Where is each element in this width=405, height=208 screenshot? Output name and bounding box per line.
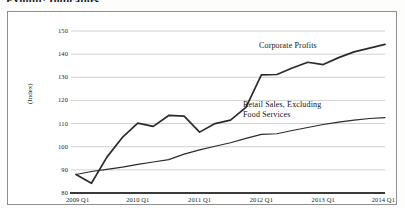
series-line-retail-sales	[76, 118, 385, 175]
y-axis-label-140: 140	[42, 50, 68, 57]
series-annotation-retail-sales: Retail Sales, Excluding Food Services	[243, 100, 363, 119]
y-axis-label-100: 100	[42, 143, 68, 150]
x-axis-label-2009-q1: 2009 Q1	[66, 196, 106, 203]
x-axis-label-2011-q1: 2011 Q1	[180, 196, 220, 203]
y-axis-label-110: 110	[42, 120, 68, 127]
retail-sales-label-line1: Retail Sales, Excluding	[243, 100, 321, 109]
x-axis-label-2010-q1: 2010 Q1	[118, 196, 158, 203]
x-axis-label-2012-q1: 2012 Q1	[241, 196, 281, 203]
y-axis-title: (Index)	[26, 83, 34, 104]
series-annotation-corporate-profits: Corporate Profits	[259, 41, 317, 51]
x-axis-label-2014-q1: 2014 Q1	[355, 196, 395, 203]
x-axis-label-2013-q1: 2013 Q1	[303, 196, 343, 203]
retail-sales-label-line2: Food Services	[243, 110, 291, 119]
figure-root: Exhibit: Indicators 80901001101201301401…	[0, 0, 405, 208]
y-axis-label-80: 80	[42, 189, 68, 196]
y-axis-label-150: 150	[42, 27, 68, 34]
y-axis-label-130: 130	[42, 73, 68, 80]
y-axis-label-90: 90	[42, 166, 68, 173]
y-axis-label-120: 120	[42, 96, 68, 103]
